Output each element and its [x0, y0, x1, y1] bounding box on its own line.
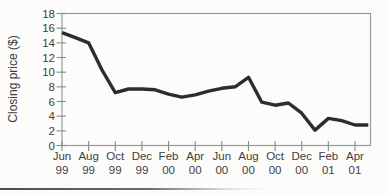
y-tick-label: 2 — [31, 124, 55, 138]
y-tick-label: 4 — [31, 109, 55, 123]
page-rule — [0, 188, 268, 190]
y-tick-label: 10 — [31, 65, 55, 79]
price-line-group — [62, 33, 368, 131]
price-line — [62, 33, 368, 131]
stock-price-chart: 024681012141618 Jun 99Aug 99Oct 99Dec 99… — [0, 0, 389, 195]
y-axis-title: Closing price ($) — [6, 35, 20, 122]
x-tick-label: Apr 01 — [338, 150, 372, 177]
y-tick-label: 8 — [31, 80, 55, 94]
y-tick-label: 16 — [31, 21, 55, 35]
y-tick-label: 6 — [31, 95, 55, 109]
y-tick-label: 18 — [31, 7, 55, 21]
y-tick-label: 12 — [31, 51, 55, 65]
y-tick-label: 14 — [31, 36, 55, 50]
